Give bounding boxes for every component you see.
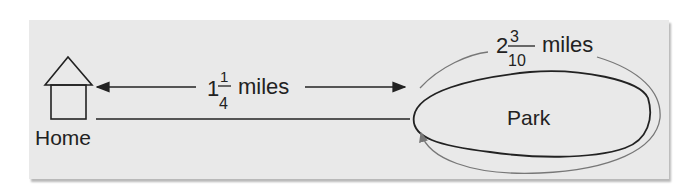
svg-text:10: 10 [508, 52, 526, 69]
home-label: Home [35, 126, 91, 149]
svg-text:miles: miles [238, 74, 289, 99]
home-to-park-distance: 1 1 4 miles [207, 68, 289, 112]
diagram-canvas: Home 1 1 4 miles Park 2 3 10 miles [0, 0, 690, 187]
svg-text:3: 3 [510, 28, 519, 45]
svg-text:miles: miles [542, 32, 593, 57]
svg-text:1: 1 [207, 76, 219, 101]
park-loop-distance: 2 3 10 miles [496, 28, 593, 69]
svg-text:2: 2 [496, 33, 508, 58]
svg-text:1: 1 [220, 68, 228, 85]
park-label: Park [507, 106, 551, 129]
house-icon [45, 57, 92, 119]
svg-text:4: 4 [219, 95, 228, 112]
